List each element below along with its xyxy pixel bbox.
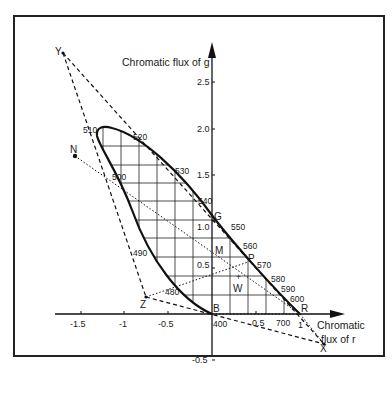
point-label-b: B: [213, 303, 220, 314]
point-w-cross: +: [236, 272, 241, 282]
r-axis-arrowhead: [330, 310, 345, 318]
point-label-w: W: [233, 283, 243, 294]
wavelength-label: 500: [112, 172, 126, 182]
wavelength-label: 540: [198, 196, 212, 206]
y-axis-label: Chromatic flux of g: [122, 56, 210, 68]
point-label-y: Y: [55, 46, 62, 57]
x-tick-label: 0.5: [252, 318, 265, 328]
wavelength-label: 530: [175, 166, 189, 176]
x-tick-label: -1.5: [70, 319, 86, 329]
point-label-p: P: [248, 253, 255, 264]
point-label-z: Z: [140, 299, 146, 310]
x-tick-label: -0.5: [158, 319, 174, 329]
wavelength-label: 480: [165, 287, 179, 297]
x-tick-label: -1: [119, 319, 127, 329]
wavelength-label: 510: [83, 125, 97, 135]
chromaticity-diagram: + Chromatic flux of g Chromatic flux of …: [0, 0, 392, 396]
y-tick-label: 2.5: [197, 77, 210, 87]
y-tick-label: 2.0: [197, 124, 210, 134]
point-y-marker: [61, 51, 64, 54]
r-axis-one-label: 1: [298, 320, 303, 330]
wavelength-label: 590: [281, 284, 295, 294]
wavelength-label: 550: [231, 222, 245, 232]
locus-grid: [80, 100, 310, 320]
wavelength-label: 560: [243, 241, 257, 251]
y-tick-label: -0.5: [192, 355, 208, 365]
wavelength-label: 570: [257, 260, 271, 270]
y-tick-label: 1.0: [197, 222, 210, 232]
y-tick-label: 0.5: [197, 260, 210, 270]
xyz-triangle: [63, 53, 324, 344]
construction-lines: [75, 156, 324, 344]
point-label-m: M: [215, 245, 223, 256]
y-tick-label: 1.5: [197, 170, 210, 180]
wavelength-label: 700: [276, 318, 290, 328]
x-axis-label-line1: Chromatic: [317, 319, 365, 331]
wavelength-label: 520: [133, 132, 147, 142]
wavelength-label: 490: [133, 248, 147, 258]
point-label-r: R: [301, 303, 308, 314]
point-label-n: N: [70, 144, 77, 155]
wavelength-label: 580: [271, 274, 285, 284]
point-label-x: X: [320, 343, 327, 354]
point-label-g: G: [214, 211, 222, 222]
spectrum-locus: [97, 127, 300, 314]
wavelength-label: 400: [213, 319, 227, 329]
